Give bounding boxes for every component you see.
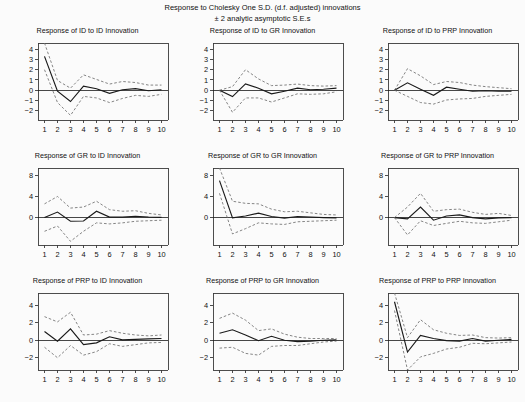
x-tick-label: 10 <box>507 250 515 259</box>
panel-6: Response of PRP to ID Innovation −202412… <box>0 276 175 401</box>
x-tick-label: 8 <box>308 375 312 384</box>
panel-title: Response of PRP to ID Innovation <box>0 276 175 285</box>
plot-area: −2−10123412345678910 <box>0 37 175 151</box>
plot-area: −202412345678910 <box>175 287 350 401</box>
panel-4: Response of GR to GR Innovation 04812345… <box>175 151 350 276</box>
panel-title: Response of GR to GR Innovation <box>175 151 350 160</box>
x-tick-label: 3 <box>418 375 422 384</box>
panel-title: Response of ID to GR Innovation <box>175 26 350 35</box>
x-tick-label: 10 <box>332 375 340 384</box>
x-tick-label: 2 <box>55 375 59 384</box>
plot-area: 04812345678910 <box>350 162 525 276</box>
y-tick-label: 1 <box>29 76 33 85</box>
x-tick-label: 5 <box>269 375 273 384</box>
plot-area: −2−10123412345678910 <box>175 37 350 151</box>
x-tick-label: 1 <box>217 125 221 134</box>
y-tick-label: 2 <box>29 318 33 327</box>
x-tick-label: 7 <box>470 125 474 134</box>
panel-title: Response of PRP to GR Innovation <box>175 276 350 285</box>
x-tick-label: 4 <box>256 250 260 259</box>
x-tick-label: 8 <box>133 375 137 384</box>
plot-area: 04812345678910 <box>0 162 175 276</box>
x-tick-label: 2 <box>405 375 409 384</box>
x-tick-label: 3 <box>243 250 247 259</box>
y-tick-label: 4 <box>379 192 383 201</box>
x-tick-label: 6 <box>107 125 111 134</box>
panel-title: Response of GR to PRP Innovation <box>350 151 525 160</box>
x-tick-label: 4 <box>81 250 85 259</box>
y-tick-label: 0 <box>29 213 33 222</box>
x-tick-label: 3 <box>243 125 247 134</box>
x-tick-label: 9 <box>496 375 500 384</box>
y-tick-label: −2 <box>375 106 383 115</box>
x-tick-label: 10 <box>507 125 515 134</box>
y-tick-label: 8 <box>379 171 383 180</box>
x-tick-label: 3 <box>68 250 72 259</box>
plot-svg: 04812345678910 <box>350 162 525 276</box>
x-tick-label: 5 <box>444 375 448 384</box>
x-tick-label: 6 <box>457 250 461 259</box>
x-tick-label: 1 <box>392 125 396 134</box>
x-tick-label: 9 <box>496 250 500 259</box>
x-tick-label: 7 <box>295 250 299 259</box>
y-tick-label: 0 <box>29 336 33 345</box>
x-tick-label: 6 <box>457 375 461 384</box>
y-tick-label: 0 <box>204 213 208 222</box>
y-tick-label: 4 <box>204 192 208 201</box>
plot-area: −202412345678910 <box>350 287 525 401</box>
x-tick-label: 4 <box>431 250 435 259</box>
y-tick-label: 4 <box>204 301 208 310</box>
panel-title: Response of ID to ID Innovation <box>0 26 175 35</box>
y-tick-label: −1 <box>25 96 33 105</box>
x-tick-label: 9 <box>146 375 150 384</box>
x-tick-label: 2 <box>405 250 409 259</box>
x-tick-label: 7 <box>120 250 124 259</box>
plot-area: 04812345678910 <box>175 162 350 276</box>
x-tick-label: 7 <box>120 125 124 134</box>
x-tick-label: 5 <box>94 375 98 384</box>
x-tick-label: 10 <box>507 375 515 384</box>
x-tick-label: 3 <box>418 125 422 134</box>
x-tick-label: 9 <box>321 375 325 384</box>
x-tick-label: 3 <box>243 375 247 384</box>
x-tick-label: 7 <box>470 375 474 384</box>
plot-svg: −2−10123412345678910 <box>175 37 350 151</box>
y-tick-label: 1 <box>379 76 383 85</box>
panel-title: Response of ID to PRP Innovation <box>350 26 525 35</box>
x-tick-label: 2 <box>55 250 59 259</box>
y-tick-label: 4 <box>204 45 208 54</box>
x-tick-label: 4 <box>431 125 435 134</box>
y-tick-label: 3 <box>29 55 33 64</box>
y-tick-label: 0 <box>29 86 33 95</box>
y-tick-label: −2 <box>375 353 383 362</box>
panel-1: Response of ID to GR Innovation −2−10123… <box>175 26 350 151</box>
x-tick-label: 3 <box>68 375 72 384</box>
y-tick-label: 1 <box>204 76 208 85</box>
x-tick-label: 7 <box>295 375 299 384</box>
x-tick-label: 10 <box>332 250 340 259</box>
panel-8: Response of PRP to PRP Innovation −20241… <box>350 276 525 401</box>
x-tick-label: 10 <box>157 250 165 259</box>
y-tick-label: 4 <box>29 301 33 310</box>
x-tick-label: 6 <box>457 125 461 134</box>
x-tick-label: 5 <box>94 250 98 259</box>
y-tick-label: 3 <box>379 55 383 64</box>
panel-0: Response of ID to ID Innovation −2−10123… <box>0 26 175 151</box>
impulse-response-figure: Response to Cholesky One S.D. (d.f. adju… <box>0 0 525 402</box>
plot-svg: −202412345678910 <box>350 287 525 401</box>
y-tick-label: 0 <box>379 336 383 345</box>
x-tick-label: 1 <box>392 250 396 259</box>
x-tick-label: 2 <box>405 125 409 134</box>
x-tick-label: 7 <box>295 125 299 134</box>
x-tick-label: 5 <box>269 250 273 259</box>
plot-svg: 04812345678910 <box>175 162 350 276</box>
y-tick-label: 0 <box>379 213 383 222</box>
y-tick-label: 8 <box>29 171 33 180</box>
x-tick-label: 9 <box>496 125 500 134</box>
x-tick-label: 10 <box>157 375 165 384</box>
x-tick-label: 7 <box>470 250 474 259</box>
x-tick-label: 8 <box>308 250 312 259</box>
plot-area: −202412345678910 <box>0 287 175 401</box>
panel-grid: Response of ID to ID Innovation −2−10123… <box>0 26 525 402</box>
y-tick-label: 4 <box>29 192 33 201</box>
